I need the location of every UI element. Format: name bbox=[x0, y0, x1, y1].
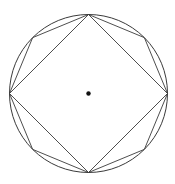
geometry-diagram bbox=[0, 0, 175, 184]
center-point bbox=[86, 91, 90, 95]
